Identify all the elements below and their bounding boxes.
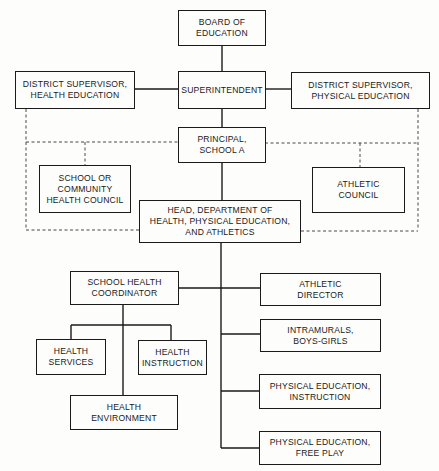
health-environment-box: HEALTH ENVIRONMENT: [70, 395, 178, 430]
health-council-box: SCHOOL OR COMMUNITY HEALTH COUNCIL: [39, 165, 131, 213]
district-supervisor-health-box: DISTRICT SUPERVISOR, HEALTH EDUCATION: [15, 71, 135, 109]
node-label: ATHLETIC DIRECTOR: [297, 279, 343, 301]
node-label: INTRAMURALS, BOYS-GIRLS: [287, 325, 353, 347]
athletic-council-box: ATHLETIC COUNCIL: [312, 167, 405, 213]
node-label: PHYSICAL EDUCATION, INSTRUCTION: [270, 381, 371, 403]
health-services-box: HEALTH SERVICES: [36, 339, 106, 375]
node-label: HEALTH ENVIRONMENT: [91, 402, 157, 424]
node-label: DISTRICT SUPERVISOR, PHYSICAL EDUCATION: [308, 80, 412, 102]
node-label: ATHLETIC COUNCIL: [337, 179, 380, 201]
node-label: DISTRICT SUPERVISOR, HEALTH EDUCATION: [23, 79, 127, 101]
department-head-box: HEAD, DEPARTMENT OF HEALTH, PHYSICAL EDU…: [139, 200, 301, 243]
node-label: SCHOOL OR COMMUNITY HEALTH COUNCIL: [46, 173, 123, 206]
node-label: SUPERINTENDENT: [181, 85, 263, 96]
athletic-director-box: ATHLETIC DIRECTOR: [260, 273, 381, 306]
node-label: PHYSICAL EDUCATION, FREE PLAY: [270, 437, 371, 459]
pe-free-play-box: PHYSICAL EDUCATION, FREE PLAY: [259, 431, 381, 465]
principal-box: PRINCIPAL, SCHOOL A: [178, 127, 266, 163]
intramurals-box: INTRAMURALS, BOYS-GIRLS: [260, 319, 381, 352]
health-instruction-box: HEALTH INSTRUCTION: [138, 340, 207, 375]
school-health-coordinator-box: SCHOOL HEALTH COORDINATOR: [70, 271, 179, 305]
org-chart: BOARD OF EDUCATION SUPERINTENDENT DISTRI…: [0, 0, 439, 471]
node-label: HEALTH INSTRUCTION: [142, 347, 203, 369]
node-label: BOARD OF EDUCATION: [196, 17, 248, 39]
node-label: PRINCIPAL, SCHOOL A: [197, 134, 246, 156]
pe-instruction-box: PHYSICAL EDUCATION, INSTRUCTION: [259, 374, 381, 409]
district-supervisor-pe-box: DISTRICT SUPERVISOR, PHYSICAL EDUCATION: [291, 72, 430, 109]
board-of-education-box: BOARD OF EDUCATION: [178, 10, 266, 46]
node-label: SCHOOL HEALTH COORDINATOR: [87, 277, 161, 299]
superintendent-box: SUPERINTENDENT: [178, 71, 266, 109]
node-label: HEAD, DEPARTMENT OF HEALTH, PHYSICAL EDU…: [150, 205, 290, 238]
node-label: HEALTH SERVICES: [49, 346, 94, 368]
